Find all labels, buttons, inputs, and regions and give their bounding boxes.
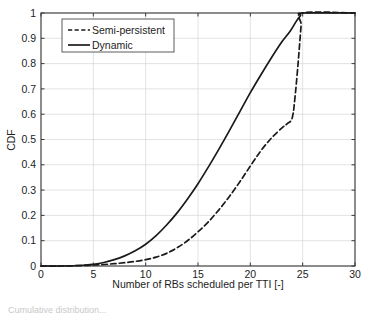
y-tick-label: 0	[30, 260, 36, 272]
chart-legend[interactable]: Semi-persistentDynamic	[62, 19, 174, 52]
x-tick-label: 0	[38, 268, 44, 280]
y-tick-label: 0.5	[21, 133, 36, 145]
x-tick-label: 5	[90, 268, 96, 280]
x-tick-label: 25	[297, 268, 309, 280]
y-tick-label: 0.7	[21, 83, 36, 95]
y-tick-label: 1	[30, 7, 36, 19]
x-tick-label: 30	[349, 268, 361, 280]
y-axis-label: CDF	[5, 129, 17, 151]
y-tick-label: 0.4	[21, 158, 36, 170]
y-tick-label: 0.1	[21, 234, 36, 246]
legend-label: Semi-persistent	[92, 24, 165, 36]
figure-container: 051015202530 00.10.20.30.40.50.60.70.80.…	[0, 0, 375, 316]
x-axis-label: Number of RBs scheduled per TTI [-]	[112, 278, 283, 290]
y-tick-label: 0.3	[21, 184, 36, 196]
y-tick-label: 0.8	[21, 57, 36, 69]
cdf-chart: 051015202530 00.10.20.30.40.50.60.70.80.…	[0, 0, 375, 316]
figure-caption: Cumulative distribution...	[8, 305, 107, 315]
y-tick-label: 0.9	[21, 32, 36, 44]
legend-label: Dynamic	[92, 39, 133, 51]
y-tick-label: 0.2	[21, 209, 36, 221]
y-axis-tick-labels: 00.10.20.30.40.50.60.70.80.91	[21, 7, 36, 272]
y-tick-label: 0.6	[21, 108, 36, 120]
